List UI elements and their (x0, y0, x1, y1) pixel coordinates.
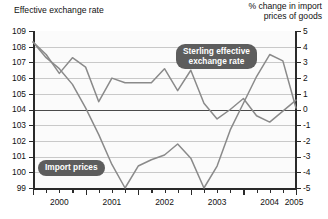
right-axis-tick (297, 110, 301, 111)
right-axis-tick (297, 125, 301, 126)
left-axis-tick-label: 100 (0, 168, 26, 176)
left-axis-tick-label: 106 (0, 74, 26, 82)
right-axis-title: % change in import prices of goods (248, 1, 322, 22)
left-axis-tick-label: 101 (0, 152, 26, 160)
right-axis-tick (297, 62, 301, 63)
right-axis-tick-label: -4 (303, 168, 325, 176)
right-axis-tick (297, 141, 301, 142)
right-axis-tick-label: -2 (303, 137, 325, 145)
left-axis-tick-label: 105 (0, 90, 26, 98)
right-axis-tick (297, 94, 301, 95)
left-axis-tick-label: 102 (0, 137, 26, 145)
x-axis-major-tick (86, 189, 87, 195)
right-axis-tick-label: 3 (303, 58, 325, 66)
x-axis-minor-tick (283, 189, 284, 193)
callout-import-prices: Import prices (38, 160, 105, 176)
x-axis-minor-tick (165, 189, 166, 193)
right-axis-tick (297, 188, 301, 189)
right-axis-tick-label: -1 (303, 121, 325, 129)
x-axis-minor-tick (151, 189, 152, 193)
x-axis-minor-tick (217, 189, 218, 193)
x-axis-minor-tick (204, 189, 205, 193)
x-axis-minor-tick (230, 189, 231, 193)
x-axis-minor-tick (59, 189, 60, 193)
right-axis-tick (297, 78, 301, 79)
right-axis-tick-label: 5 (303, 27, 325, 35)
left-axis-tick-label: 108 (0, 43, 26, 51)
left-axis-title: Effective exchange rate (14, 5, 104, 15)
left-axis-tick-label: 103 (0, 121, 26, 129)
x-axis-tick-label: 2002 (145, 198, 185, 206)
right-axis-tick-label: 1 (303, 90, 325, 98)
right-axis-tick-label: 2 (303, 74, 325, 82)
x-axis-minor-tick (72, 189, 73, 193)
x-axis-tick-label: 2001 (92, 198, 132, 206)
x-axis-minor-tick (112, 189, 113, 193)
left-axis-tick-label: 109 (0, 27, 26, 35)
right-axis-tick-label: 4 (303, 43, 325, 51)
right-axis-tick (297, 31, 301, 32)
left-axis-tick-label: 99 (0, 184, 26, 192)
x-axis-major-tick (191, 189, 192, 195)
chart-root: Effective exchange rate % change in impo… (0, 0, 328, 219)
x-axis-tick-label: 2003 (197, 198, 237, 206)
left-axis-tick-label: 107 (0, 58, 26, 66)
right-axis-tick (297, 172, 301, 173)
right-axis-tick-label: -5 (303, 184, 325, 192)
x-axis-minor-tick (46, 189, 47, 193)
x-axis-major-tick (138, 189, 139, 195)
x-axis-minor-tick (99, 189, 100, 193)
x-axis-tick-label: 2000 (39, 198, 79, 206)
x-axis-tick-label: 2005 (274, 198, 314, 206)
x-axis-minor-tick (125, 189, 126, 193)
right-axis-tick (297, 47, 301, 48)
left-axis-tick-label: 104 (0, 105, 26, 113)
x-axis-major-tick (296, 189, 297, 195)
x-axis-major-tick (33, 189, 34, 195)
right-axis-tick (297, 157, 301, 158)
x-axis-minor-tick (178, 189, 179, 193)
x-axis-major-tick (243, 189, 244, 195)
x-axis-minor-tick (257, 189, 258, 193)
right-axis-tick-label: -3 (303, 152, 325, 160)
x-axis-minor-tick (270, 189, 271, 193)
callout-sterling: Sterling effective exchange rate (176, 44, 257, 69)
right-axis-tick-label: 0 (303, 105, 325, 113)
